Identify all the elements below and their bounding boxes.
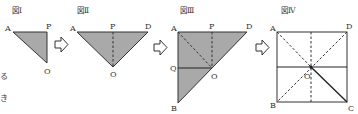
arrow-right-icon <box>154 40 167 55</box>
point-label-D: D <box>246 22 252 31</box>
point-label-A: A <box>269 24 276 33</box>
arrow-right-icon <box>55 37 68 52</box>
figure-4-title: 図Ⅳ <box>281 6 296 15</box>
figure-3-title: 図Ⅲ <box>180 6 194 15</box>
point-label-A: A <box>69 24 76 33</box>
figure-3: 図Ⅲ A P D Q O B <box>170 6 252 113</box>
center-point-O <box>309 65 312 68</box>
point-label-A: A <box>170 24 177 33</box>
point-label-B: B <box>270 101 276 110</box>
point-label-O: O <box>110 70 117 79</box>
figure-4: 図Ⅳ A D B C O <box>269 6 354 113</box>
folding-diagram: る き 図Ⅰ A P O 図Ⅱ A P D O 図Ⅲ A P D Q O B <box>0 0 358 114</box>
figure-1: 図Ⅰ A P O <box>4 6 52 76</box>
side-text-2: き <box>0 94 8 103</box>
point-label-P: P <box>46 22 52 31</box>
triangle-APO <box>13 32 47 63</box>
point-label-P: P <box>209 22 215 31</box>
point-label-O: O <box>211 72 218 81</box>
point-label-C: C <box>348 104 354 113</box>
arrow-right-icon <box>256 40 269 55</box>
figure-1-title: 図Ⅰ <box>12 6 22 15</box>
point-label-D: D <box>346 22 352 31</box>
figure-2-title: 図Ⅱ <box>77 6 89 15</box>
point-label-O: O <box>304 72 311 81</box>
point-label-O: O <box>44 67 51 76</box>
point-label-Q: Q <box>170 64 177 73</box>
point-label-P: P <box>110 22 116 31</box>
point-label-B: B <box>171 104 177 113</box>
point-label-A: A <box>4 24 11 33</box>
side-text-1: る <box>0 72 8 81</box>
figure-2: 図Ⅱ A P D O <box>69 6 151 79</box>
point-label-D: D <box>145 22 151 31</box>
